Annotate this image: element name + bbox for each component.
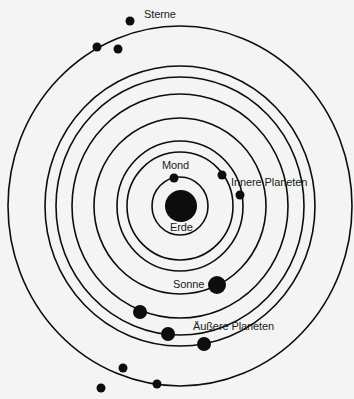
- body-stern-6: [97, 384, 106, 393]
- orbit-rings: [0, 0, 354, 399]
- body-stern-1: [126, 17, 135, 26]
- body-innere-planet-1: [218, 171, 227, 180]
- body-stern-2: [93, 43, 102, 52]
- label-outer-planets: Äußere Planeten: [193, 321, 274, 332]
- geocentric-diagram: Sterne Mond Innere Planeten Erde Sonne Ä…: [0, 0, 354, 399]
- body-innere-planet-2: [236, 191, 245, 200]
- label-stars: Sterne: [144, 9, 176, 20]
- body-sonne: [208, 276, 226, 294]
- body-stern-3: [114, 45, 123, 54]
- body-erde: [165, 190, 197, 222]
- label-moon: Mond: [162, 160, 189, 171]
- label-sun: Sonne: [173, 279, 204, 290]
- body-stern-4: [119, 364, 128, 373]
- label-inner-planets: Innere Planeten: [231, 177, 307, 188]
- body-aeussere-planet-1: [133, 305, 147, 319]
- body-aeussere-planet-3: [197, 337, 211, 351]
- body-mond: [170, 174, 179, 183]
- body-stern-5: [153, 380, 162, 389]
- body-aeussere-planet-2: [161, 327, 175, 341]
- label-earth: Erde: [170, 222, 193, 233]
